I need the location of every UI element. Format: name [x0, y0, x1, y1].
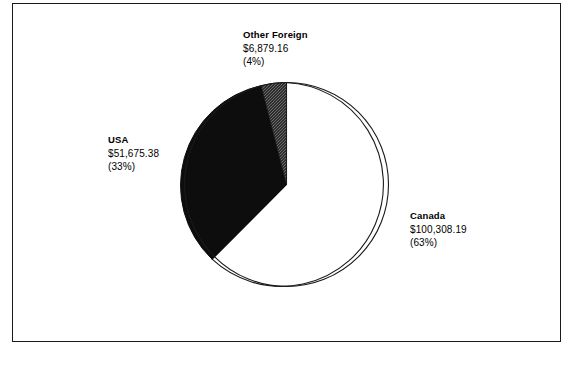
pie-label-usa-percent: (33%) [108, 160, 159, 173]
pie-label-other-foreign-title: Other Foreign [243, 29, 308, 42]
pie-label-usa: USA $51,675.38 (33%) [108, 134, 159, 173]
pie-label-canada-value: $100,308.19 [410, 223, 467, 236]
pie-label-other-foreign-value: $6,879.16 [243, 42, 308, 55]
pie-label-usa-value: $51,675.38 [108, 147, 159, 160]
pie-label-usa-title: USA [108, 134, 159, 147]
pie-label-canada: Canada $100,308.19 (63%) [410, 210, 467, 249]
pie-label-canada-title: Canada [410, 210, 467, 223]
pie-label-other-foreign: Other Foreign $6,879.16 (4%) [243, 29, 308, 68]
pie-label-canada-percent: (63%) [410, 236, 467, 249]
pie-label-other-foreign-percent: (4%) [243, 55, 308, 68]
